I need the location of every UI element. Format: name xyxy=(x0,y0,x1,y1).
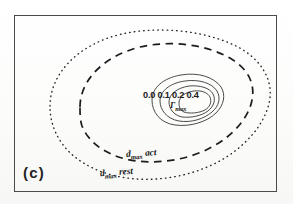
dmax-act-suffix: act xyxy=(142,147,156,158)
gamma-subscript: max xyxy=(175,105,186,112)
contour-level-values: 0.0 0.1 0.2 0.4 xyxy=(143,90,199,100)
contour-curve-dmax-act xyxy=(80,44,253,162)
panel-label-c: (c) xyxy=(23,164,45,181)
gamma-max-label: Γmax xyxy=(170,100,187,112)
label-dmax-act: dmax act xyxy=(126,147,157,161)
dmax-act-subscript: max xyxy=(131,153,143,161)
dmax-rest-suffix: rest xyxy=(116,166,133,177)
dmax-rest-subscript: max xyxy=(105,172,118,180)
figure-panel-c: 0.0 0.1 0.2 0.4 Γmax dmax act dmax rest … xyxy=(0,0,293,204)
